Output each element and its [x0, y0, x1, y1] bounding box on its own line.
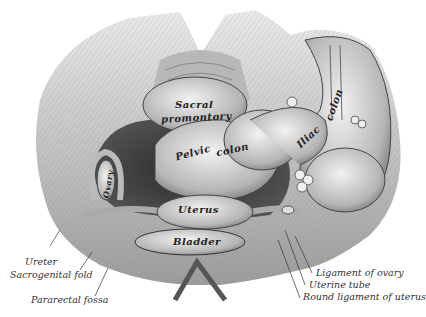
label-sacral: Sacral: [175, 100, 213, 110]
callout-ligament-of-ovary: Ligament of ovary: [316, 268, 404, 278]
label-uterus: Uterus: [178, 205, 219, 215]
callout-pararectal-fossa: Pararectal fossa: [31, 295, 109, 305]
label-bladder: Bladder: [173, 237, 221, 247]
callout-round-ligament-of-uterus: Round ligament of uterus: [303, 292, 426, 302]
callout-ureter: Ureter: [25, 257, 57, 267]
callout-uterine-tube: Uterine tube: [309, 280, 370, 290]
callout-sacrogenital-fold: Sacrogenital fold: [10, 270, 93, 280]
